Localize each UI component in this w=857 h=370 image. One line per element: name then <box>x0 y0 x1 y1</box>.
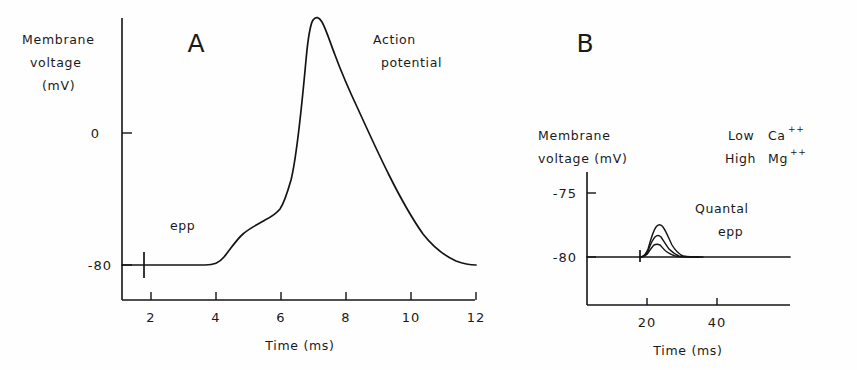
panel-b-xlabel: Time (ms) <box>652 343 722 358</box>
panel-a-ylabel-line2: voltage <box>30 55 82 70</box>
panel-a-ylabel-line1: Membrane <box>22 32 95 47</box>
panel-a-xtick-label-4: 4 <box>211 310 220 325</box>
panel-b-condition-low-label: Low <box>728 128 754 143</box>
panel-b-ytick-label-minus75: -75 <box>553 186 577 201</box>
panel-a-plot: Membrane voltage (mV) 0 -80 2 4 6 8 10 1… <box>0 0 520 370</box>
panel-b-condition-ca-charge: ++ <box>788 124 804 134</box>
panel-a-xtick-label-10: 10 <box>402 310 421 325</box>
panel-a-ytick-label-minus80: -80 <box>88 258 112 273</box>
figure-container: Membrane voltage (mV) 0 -80 2 4 6 8 10 1… <box>0 0 857 370</box>
panel-a-xlabel: Time (ms) <box>264 338 334 353</box>
panel-b-condition-mg-label: Mg <box>768 151 788 166</box>
panel-b-condition-ca-label: Ca <box>768 128 786 143</box>
panel-b-xtick-label-40: 40 <box>708 315 727 330</box>
panel-a-letter: A <box>187 29 204 58</box>
panel-b-ylabel-line1: Membrane <box>538 128 611 143</box>
panel-a-annotation-potential: potential <box>381 55 442 70</box>
panel-a-ylabel-line3: (mV) <box>42 78 75 93</box>
panel-a-ytick-label-0: 0 <box>91 126 100 141</box>
panel-b: Membrane voltage (mV) -75 -80 20 40 Time… <box>520 0 857 370</box>
panel-b-condition-high-label: High <box>725 151 756 166</box>
panel-b-xtick-label-20: 20 <box>638 315 657 330</box>
panel-b-plot: Membrane voltage (mV) -75 -80 20 40 Time… <box>520 0 857 370</box>
panel-a-xtick-label-2: 2 <box>146 310 155 325</box>
panel-a-xtick-label-6: 6 <box>276 310 285 325</box>
panel-b-ytick-label-minus80: -80 <box>553 250 577 265</box>
panel-b-annotation-quantal: Quantal <box>695 201 749 216</box>
panel-a-xtick-label-12: 12 <box>467 310 486 325</box>
panel-a-annotation-epp: epp <box>170 218 195 233</box>
panel-a: Membrane voltage (mV) 0 -80 2 4 6 8 10 1… <box>0 0 520 370</box>
panel-a-xtick-label-8: 8 <box>341 310 350 325</box>
panel-b-annotation-epp: epp <box>718 224 743 239</box>
panel-a-annotation-action: Action <box>373 32 416 47</box>
panel-b-ylabel-line2: voltage (mV) <box>538 151 628 166</box>
panel-b-letter: B <box>576 29 593 58</box>
panel-b-condition-mg-charge: ++ <box>790 147 806 157</box>
